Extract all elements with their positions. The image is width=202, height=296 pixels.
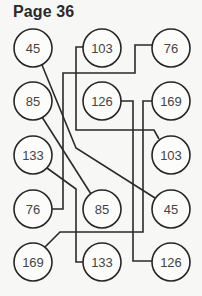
- node-middle-133: 133: [83, 243, 121, 281]
- node-label: 76: [26, 202, 40, 217]
- node-label: 126: [160, 255, 182, 270]
- node-label: 169: [22, 255, 44, 270]
- connection-133-133: [47, 168, 83, 262]
- node-right-169: 169: [152, 82, 190, 120]
- node-right-126: 126: [152, 243, 190, 281]
- matching-diagram: 45 85 133 76 169 103 126 85: [0, 0, 202, 296]
- node-label: 126: [91, 94, 113, 109]
- node-right-103: 103: [152, 136, 190, 174]
- left-column: 45 85 133 76 169: [14, 29, 52, 281]
- node-left-169: 169: [14, 243, 52, 281]
- node-right-45: 45: [152, 190, 190, 228]
- node-label: 169: [160, 94, 182, 109]
- node-right-76: 76: [152, 29, 190, 67]
- node-label: 133: [91, 255, 113, 270]
- right-column: 76 169 103 45 126: [152, 29, 190, 281]
- node-label: 133: [22, 148, 44, 163]
- node-left-45: 45: [14, 29, 52, 67]
- node-label: 45: [164, 202, 178, 217]
- node-label: 85: [26, 94, 40, 109]
- middle-column: 103 126 85 133: [83, 29, 121, 281]
- node-middle-103: 103: [83, 29, 121, 67]
- node-label: 76: [164, 41, 178, 56]
- node-left-85: 85: [14, 82, 52, 120]
- node-label: 45: [26, 41, 40, 56]
- connections: [42, 45, 159, 262]
- node-left-76: 76: [14, 190, 52, 228]
- connection-126-126: [121, 101, 152, 261]
- node-middle-85: 85: [83, 190, 121, 228]
- node-label: 103: [91, 41, 113, 56]
- node-middle-126: 126: [83, 82, 121, 120]
- node-left-133: 133: [14, 136, 52, 174]
- node-label: 103: [160, 148, 182, 163]
- node-label: 85: [95, 202, 109, 217]
